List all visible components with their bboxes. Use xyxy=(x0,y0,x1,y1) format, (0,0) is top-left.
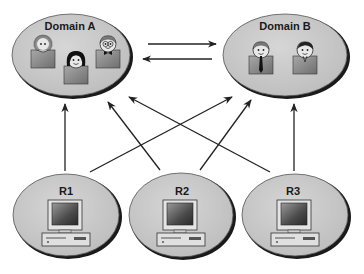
access-arrows xyxy=(65,97,294,172)
arrow-r2-to-a xyxy=(108,102,160,170)
user-icon xyxy=(31,35,55,68)
domain-b-node: Domain B xyxy=(223,14,350,99)
resource-r1-label: R1 xyxy=(59,185,73,197)
arrow-r3-to-a xyxy=(129,97,270,172)
domain-a-label: Domain A xyxy=(45,20,96,32)
trust-arrows xyxy=(143,44,216,59)
resource-r2-label: R2 xyxy=(175,185,189,197)
resource-r3-node: R3 xyxy=(242,174,351,259)
domain-a-node: Domain A xyxy=(12,14,133,99)
resource-r3-label: R3 xyxy=(286,185,300,197)
arrow-r1-to-b xyxy=(90,97,232,172)
resource-r2-node: R2 xyxy=(129,173,236,260)
trust-diagram: Domain A Domain B xyxy=(0,0,364,274)
domain-b-label: Domain B xyxy=(259,20,310,32)
resource-r1-node: R1 xyxy=(13,174,122,259)
